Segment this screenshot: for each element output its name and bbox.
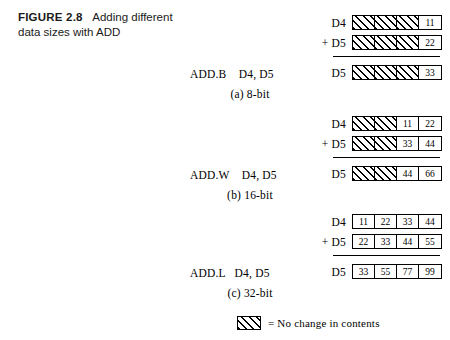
register-cell-unchanged: [353, 117, 375, 130]
figure-number: FIGURE 2.8: [18, 11, 83, 23]
register-cell-unchanged: [375, 16, 397, 29]
register-row: + D522334455: [300, 233, 442, 250]
register-row: + D522: [300, 34, 442, 51]
mnemonic-32-bit: ADD.L D4, D5: [190, 267, 270, 279]
register-cell-value: 11: [397, 117, 419, 130]
sum-separator-line: [333, 56, 440, 57]
register-row: D411: [300, 14, 442, 31]
register-cell-value: 44: [397, 167, 419, 180]
figure-page: FIGURE 2.8 Adding different data sizes w…: [0, 0, 450, 340]
mnemonic-8-bit: ADD.B D4, D5: [190, 68, 274, 80]
register-cell-value: 44: [419, 137, 441, 150]
register-cells: 22: [352, 35, 442, 50]
subcaption-32-bit: (c) 32-bit: [190, 287, 310, 299]
register-cell-value: 22: [419, 36, 441, 49]
legend-label: = No change in contents: [268, 317, 380, 329]
register-cells: 4466: [352, 166, 442, 181]
subcaption-16-bit: (b) 16-bit: [190, 189, 310, 201]
register-cell-value: 33: [375, 235, 397, 248]
register-cell-value: 33: [397, 215, 419, 228]
sum-separator-line: [333, 255, 440, 256]
register-label: + D5: [300, 138, 352, 150]
register-cell-value: 44: [419, 215, 441, 228]
register-cell-unchanged: [397, 36, 419, 49]
mnemonic-16-bit: ADD.W D4, D5: [190, 169, 277, 181]
register-cell-value: 22: [353, 235, 375, 248]
register-cell-unchanged: [375, 167, 397, 180]
register-label: D5: [300, 67, 352, 79]
register-cell-value: 22: [419, 117, 441, 130]
register-cell-value: 77: [397, 265, 419, 278]
register-label: + D5: [300, 236, 352, 248]
register-cell-value: 66: [419, 167, 441, 180]
register-cell-unchanged: [375, 66, 397, 79]
register-cell-unchanged: [375, 117, 397, 130]
hatch-swatch-icon: [237, 316, 261, 330]
register-cell-unchanged: [353, 137, 375, 150]
register-cell-value: 55: [375, 265, 397, 278]
register-cell-value: 33: [397, 137, 419, 150]
register-cell-value: 22: [375, 215, 397, 228]
register-label: D4: [300, 17, 352, 29]
register-cell-value: 11: [419, 16, 441, 29]
register-cells: 22334455: [352, 234, 442, 249]
register-cells: 1122: [352, 116, 442, 131]
register-cell-value: 44: [397, 235, 419, 248]
register-cells: 3344: [352, 136, 442, 151]
register-label: D4: [300, 216, 352, 228]
register-label: + D5: [300, 37, 352, 49]
register-cells: 33: [352, 65, 442, 80]
register-cells: 11223344: [352, 214, 442, 229]
register-label: D5: [300, 168, 352, 180]
register-cell-unchanged: [375, 137, 397, 150]
register-cells: 11: [352, 15, 442, 30]
register-row: D54466: [300, 165, 442, 182]
register-label: D5: [300, 266, 352, 278]
register-row: D41122: [300, 115, 442, 132]
register-cell-unchanged: [397, 16, 419, 29]
legend: = No change in contents: [237, 316, 380, 330]
register-cell-unchanged: [397, 66, 419, 79]
register-cell-value: 55: [419, 235, 441, 248]
register-cell-unchanged: [353, 167, 375, 180]
register-cell-unchanged: [375, 36, 397, 49]
subcaption-8-bit: (a) 8-bit: [190, 88, 310, 100]
sum-separator-line: [333, 157, 440, 158]
register-label: D4: [300, 118, 352, 130]
register-cell-value: 11: [353, 215, 375, 228]
register-cells: 33557799: [352, 264, 442, 279]
register-row: D533: [300, 64, 442, 81]
register-cell-unchanged: [353, 66, 375, 79]
register-cell-unchanged: [353, 16, 375, 29]
figure-caption: FIGURE 2.8 Adding different data sizes w…: [18, 10, 183, 40]
register-cell-unchanged: [353, 36, 375, 49]
register-row: D533557799: [300, 263, 442, 280]
register-cell-value: 33: [419, 66, 441, 79]
register-cell-value: 33: [353, 265, 375, 278]
register-cell-value: 99: [419, 265, 441, 278]
register-row: D411223344: [300, 213, 442, 230]
register-row: + D53344: [300, 135, 442, 152]
